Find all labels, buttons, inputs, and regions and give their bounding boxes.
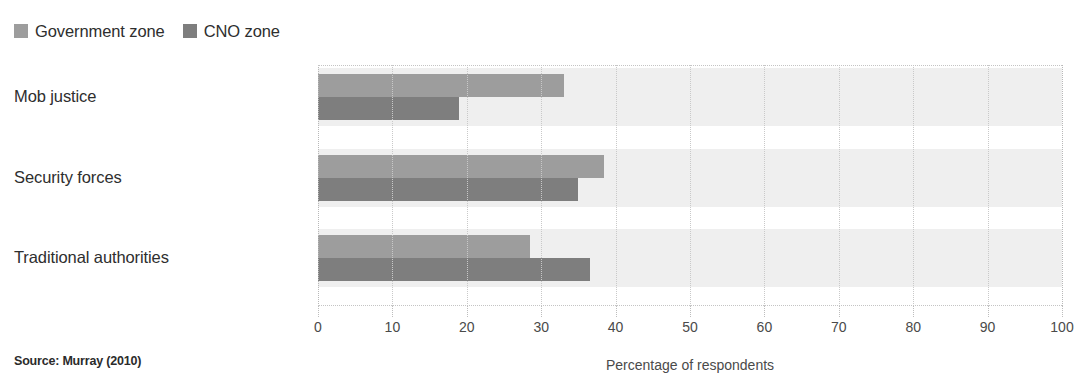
x-tick-label-100: 100 <box>1050 319 1073 335</box>
category-label-1: Security forces <box>14 168 122 187</box>
x-tick-label-20: 20 <box>459 319 475 335</box>
legend-label: CNO zone <box>204 22 280 41</box>
x-tick-mark-50 <box>690 306 691 317</box>
gridline-80 <box>913 65 914 306</box>
legend-item-government[interactable]: Government zone <box>14 22 165 41</box>
x-tick-label-80: 80 <box>905 319 921 335</box>
x-tick-mark-60 <box>764 306 765 317</box>
x-tick-mark-30 <box>541 306 542 317</box>
chart-legend: Government zoneCNO zone <box>14 20 280 42</box>
bar-government-0[interactable] <box>318 74 564 97</box>
x-tick-label-40: 40 <box>608 319 624 335</box>
legend-swatch-icon <box>14 24 28 38</box>
bar-cno-1[interactable] <box>318 178 578 201</box>
x-tick-label-10: 10 <box>385 319 401 335</box>
x-tick-mark-100 <box>1062 306 1063 317</box>
gridline-40 <box>616 65 617 306</box>
x-tick-mark-40 <box>616 306 617 317</box>
gridline-10 <box>392 65 393 306</box>
gridline-90 <box>988 65 989 306</box>
bar-cno-2[interactable] <box>318 258 590 281</box>
x-tick-label-50: 50 <box>682 319 698 335</box>
legend-label: Government zone <box>35 22 165 41</box>
bar-government-1[interactable] <box>318 155 604 178</box>
x-tick-label-70: 70 <box>831 319 847 335</box>
category-label-2: Traditional authorities <box>14 248 169 267</box>
gridline-0 <box>318 65 319 306</box>
gridline-50 <box>690 65 691 306</box>
x-tick-mark-10 <box>392 306 393 317</box>
bar-cno-0[interactable] <box>318 97 459 120</box>
x-tick-mark-70 <box>839 306 840 317</box>
x-tick-label-90: 90 <box>980 319 996 335</box>
x-axis: 0102030405060708090100 <box>318 306 1062 346</box>
gridline-20 <box>467 65 468 306</box>
category-label-0: Mob justice <box>14 87 96 106</box>
x-tick-mark-90 <box>988 306 989 317</box>
source-note: Source: Murray (2010) <box>14 354 141 368</box>
gridline-100 <box>1062 65 1063 306</box>
plot-area <box>318 65 1062 306</box>
gridline-30 <box>541 65 542 306</box>
gridline-70 <box>839 65 840 306</box>
x-tick-label-30: 30 <box>533 319 549 335</box>
gridline-60 <box>764 65 765 306</box>
x-tick-mark-0 <box>318 306 319 317</box>
x-tick-label-60: 60 <box>757 319 773 335</box>
x-axis-title: Percentage of respondents <box>318 357 1062 373</box>
x-tick-label-0: 0 <box>314 319 322 335</box>
legend-item-cno[interactable]: CNO zone <box>183 22 280 41</box>
x-tick-mark-20 <box>467 306 468 317</box>
bar-government-2[interactable] <box>318 235 530 258</box>
plot-rule-top <box>318 65 1062 66</box>
legend-swatch-icon <box>183 24 197 38</box>
x-tick-mark-80 <box>913 306 914 317</box>
